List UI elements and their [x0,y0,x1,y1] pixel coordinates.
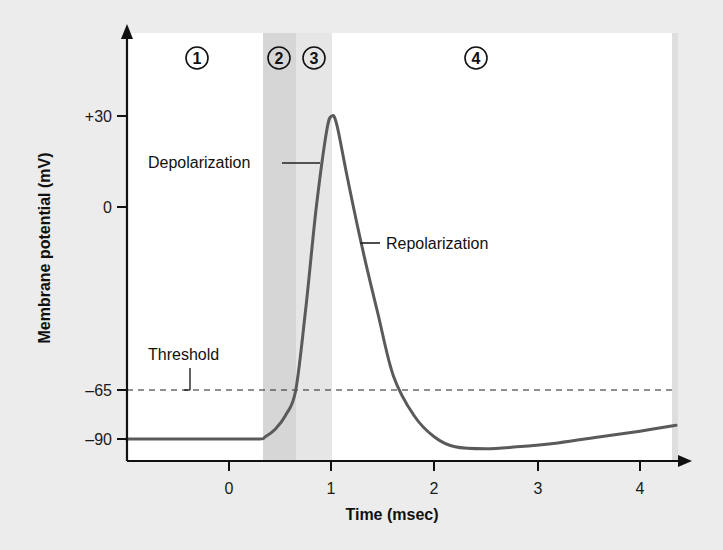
phase-3-label: 3 [310,50,319,67]
phase-1-label: 1 [193,50,202,67]
y-tick-label: 0 [103,199,112,216]
y-tick-label: –65 [85,382,112,399]
chart-svg: 1 2 3 4 +30 0 –65 –90 0 1 2 [0,0,723,550]
x-tick-label: 2 [430,480,439,497]
phase-3-band [296,33,332,461]
x-tick-label: 4 [636,480,645,497]
x-tick-label: 3 [534,480,543,497]
action-potential-figure: 1 2 3 4 +30 0 –65 –90 0 1 2 [0,0,723,550]
depolarization-label: Depolarization [148,154,250,171]
threshold-label: Threshold [148,346,219,363]
y-tick-label: –90 [85,431,112,448]
x-ticks: 0 1 2 3 4 [225,461,645,497]
phase-4-label: 4 [472,50,481,67]
panel-shadow [672,33,678,461]
y-ticks: +30 0 –65 –90 [85,108,127,448]
x-tick-label: 0 [225,480,234,497]
phase-2-label: 2 [275,50,284,67]
phase-2-band [263,33,296,461]
repolarization-label: Repolarization [386,235,488,252]
y-axis-title: Membrane potential (mV) [36,152,53,343]
y-axis-arrow-icon [121,24,133,39]
y-tick-label: +30 [85,108,112,125]
x-tick-label: 1 [327,480,336,497]
x-axis-title: Time (msec) [345,506,438,523]
x-axis-arrow-icon [678,455,692,467]
